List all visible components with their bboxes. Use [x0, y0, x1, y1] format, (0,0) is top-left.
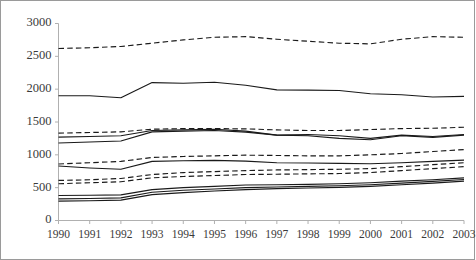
series-line-series-8 — [59, 163, 465, 181]
series-line-series-3 — [59, 127, 465, 133]
y-tick-label: 1000 — [27, 147, 52, 161]
y-tick-label: 2500 — [27, 48, 52, 62]
y-tick-label: 2000 — [27, 81, 52, 95]
series-line-series-10 — [59, 178, 465, 196]
x-tick-label: 1997 — [265, 228, 288, 240]
y-tick-label: 500 — [33, 180, 52, 194]
x-tick-label: 1995 — [203, 228, 226, 240]
x-tick-label: 1999 — [328, 228, 351, 240]
y-tick-label: 0 — [45, 212, 51, 226]
x-tick-label: 2002 — [421, 228, 444, 240]
series-line-series-2 — [59, 82, 465, 97]
chart-series-group — [59, 37, 465, 202]
series-line-series-5 — [59, 131, 465, 143]
series-line-series-1 — [59, 37, 465, 49]
x-tick-label: 1994 — [172, 228, 195, 240]
x-tick-label: 1992 — [109, 228, 132, 240]
y-tick-label: 3000 — [27, 15, 52, 29]
x-axis-ticks: 1990199119921993199419951996199719981999… — [47, 221, 476, 240]
x-tick-label: 2000 — [359, 228, 382, 240]
x-tick-label: 1998 — [297, 228, 320, 240]
x-tick-label: 2001 — [390, 228, 413, 240]
x-tick-label: 1993 — [141, 228, 164, 240]
x-tick-label: 1996 — [234, 228, 257, 240]
y-tick-label: 1500 — [27, 114, 52, 128]
chart-axes — [59, 24, 465, 221]
y-axis-ticks: 050010001500200025003000 — [27, 15, 59, 226]
x-tick-label: 2003 — [453, 228, 476, 240]
line-chart-svg: 0500100015002000250030001990199119921993… — [1, 1, 476, 260]
x-tick-label: 1990 — [47, 228, 70, 240]
x-tick-label: 1991 — [78, 228, 101, 240]
chart-plot-area: 0500100015002000250030001990199119921993… — [1, 1, 476, 260]
series-line-series-7 — [59, 160, 465, 169]
